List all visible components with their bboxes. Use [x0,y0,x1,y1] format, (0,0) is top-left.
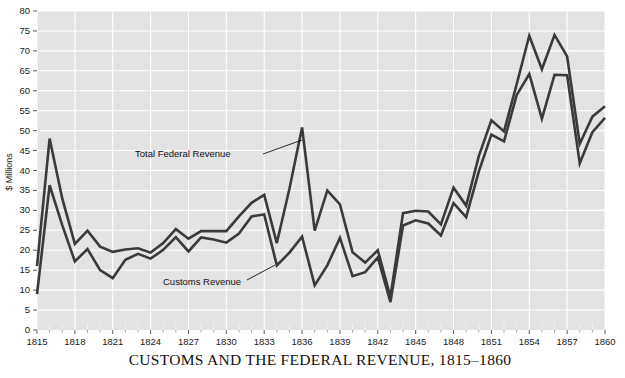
x-tick-label: 1821 [102,336,123,347]
x-tick-label: 1848 [443,336,464,347]
x-tick-label: 1830 [216,336,237,347]
x-tick-label: 1833 [254,336,275,347]
y-tick-label: 45 [19,145,30,156]
x-tick-label: 1857 [557,336,578,347]
annotation-label-customs-revenue: Customs Revenue [163,276,241,287]
y-tick-label: 5 [25,304,30,315]
y-tick-label: 0 [25,324,30,335]
y-tick-label: 40 [19,165,30,176]
x-tick-label: 1818 [64,336,85,347]
x-tick-label: 1851 [481,336,502,347]
y-tick-label: 65 [19,65,30,76]
y-axis-title: $ Millions [4,153,14,191]
x-tick-label: 1854 [519,336,540,347]
x-tick-label: 1836 [291,336,312,347]
x-tick-label: 1860 [594,336,615,347]
y-tick-label: 70 [19,45,30,56]
y-tick-label: 50 [19,125,30,136]
y-tick-label: 25 [19,224,30,235]
y-tick-label: 80 [19,5,30,16]
y-tick-label: 75 [19,25,30,36]
chart-figure: 05101520253035404550556065707580 1815181… [0,0,625,378]
y-tick-label: 55 [19,105,30,116]
y-tick-label: 60 [19,85,30,96]
y-tick-label: 30 [19,204,30,215]
y-tick-label: 20 [19,244,30,255]
annotation-label-total-federal-revenue: Total Federal Revenue [135,148,231,159]
x-tick-label: 1824 [140,336,161,347]
chart-title: CUSTOMS AND THE FEDERAL REVENUE, 1815–18… [129,351,512,368]
chart-canvas: 05101520253035404550556065707580 1815181… [0,0,625,378]
y-axis-tick-labels: 05101520253035404550556065707580 [19,5,30,335]
x-tick-label: 1839 [329,336,350,347]
x-tick-label: 1842 [367,336,388,347]
x-tick-label: 1827 [178,336,199,347]
y-tick-label: 10 [19,284,30,295]
x-tick-label: 1845 [405,336,426,347]
y-tick-label: 35 [19,184,30,195]
x-tick-label: 1815 [26,336,47,347]
y-tick-label: 15 [19,264,30,275]
